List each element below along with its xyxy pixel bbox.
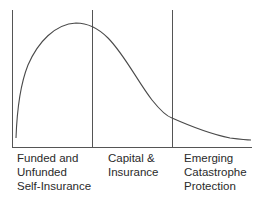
segment-label-catastrophe-protection: Emerging Catastrophe Protection (184, 151, 247, 193)
segment-label-capital-insurance: Capital & Insurance (108, 151, 159, 179)
segment-label-self-insurance: Funded and Unfunded Self-Insurance (17, 151, 91, 193)
risk-financing-diagram: Funded and Unfunded Self-Insurance Capit… (0, 0, 264, 203)
distribution-curve (16, 23, 251, 140)
